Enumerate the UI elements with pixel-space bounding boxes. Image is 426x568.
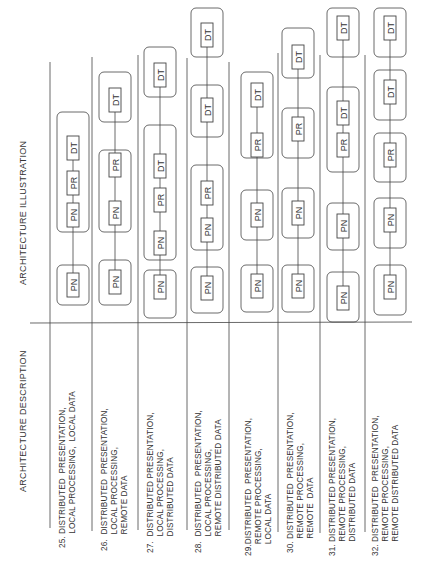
- node-label: PN: [386, 214, 396, 227]
- node-label: DT: [339, 22, 349, 34]
- node-label: PR: [69, 176, 79, 189]
- node-label: DT: [253, 89, 263, 101]
- node-label: PN: [69, 209, 79, 222]
- node-label: DT: [156, 160, 166, 172]
- node-label: PR: [111, 158, 121, 171]
- node-label: PN: [294, 280, 304, 293]
- row-32-description: 32. DISTRIBUTED PRESENTATION, REMOTE PRO…: [371, 415, 402, 556]
- node-label: DT: [156, 69, 166, 81]
- node-label: PR: [203, 186, 213, 199]
- node-label: PN: [69, 279, 79, 292]
- row-31-diagram: PNPNPRDTDT: [327, 8, 359, 322]
- node-label: DT: [69, 142, 79, 154]
- node-label: DT: [386, 22, 396, 34]
- row-29-description: 29.DISTRIBUTED PRESENTATION, REMOTE PROC…: [244, 418, 275, 556]
- node-label: PR: [339, 138, 349, 151]
- node-label: PN: [253, 280, 263, 293]
- row-27-diagram: PNPNPRDTDT: [144, 47, 176, 318]
- node-label: PR: [386, 148, 396, 161]
- node-label: DT: [294, 51, 304, 63]
- node-label: DT: [339, 107, 349, 119]
- node-label: PN: [203, 282, 213, 295]
- row-26-description: 26. DISTRIBUTED PRESENTATION, LOCAL PROC…: [100, 408, 131, 551]
- node-label: PN: [386, 281, 396, 294]
- row-25-diagram: PNPNPRDT: [57, 112, 89, 305]
- node-label: PR: [294, 122, 304, 135]
- row-28-diagram: PNPNPRDTDT: [191, 8, 223, 313]
- node-label: PN: [294, 207, 304, 220]
- row-30-description: 30. DISTRIBUTED PRESENTATION, REMOTE PRO…: [286, 412, 317, 553]
- row-30-diagram: PNPNPRDT: [282, 28, 314, 312]
- node-label: PN: [203, 224, 213, 237]
- row-29-diagram: PNPNPRDT: [241, 72, 273, 312]
- node-label: PN: [253, 209, 263, 222]
- node-label: DT: [111, 94, 121, 106]
- node-label: PN: [111, 276, 121, 289]
- node-label: DT: [386, 86, 396, 98]
- architecture-table: ARCHITECTURE DESCRIPTION ARCHITECTURE IL…: [0, 0, 426, 568]
- node-label: PN: [339, 292, 349, 305]
- row-32-diagram: PNPNPRDTDT: [374, 8, 406, 315]
- node-label: DT: [203, 104, 213, 116]
- node-label: DT: [203, 29, 213, 41]
- row-26-diagram: PNPNPRDT: [99, 72, 131, 305]
- row-27-description: 27. DISTRIBUTED PRESENTATION, LOCAL PROC…: [146, 412, 177, 553]
- node-label: PN: [156, 237, 166, 250]
- row-28-description: 28. DISTRIBUTED PRESENTATION, LOCAL PROC…: [194, 410, 225, 553]
- row-25-description: 25. DISTRIBUTED PRESENTATION, LOCAL PROC…: [58, 391, 78, 548]
- node-label: PN: [339, 220, 349, 233]
- node-label: PN: [156, 281, 166, 294]
- row-31-description: 31. DISTRIBUTED PRESENTATION, REMOTE PRO…: [328, 418, 359, 556]
- node-label: PR: [156, 193, 166, 206]
- node-label: PR: [253, 138, 263, 151]
- node-label: PN: [111, 207, 121, 220]
